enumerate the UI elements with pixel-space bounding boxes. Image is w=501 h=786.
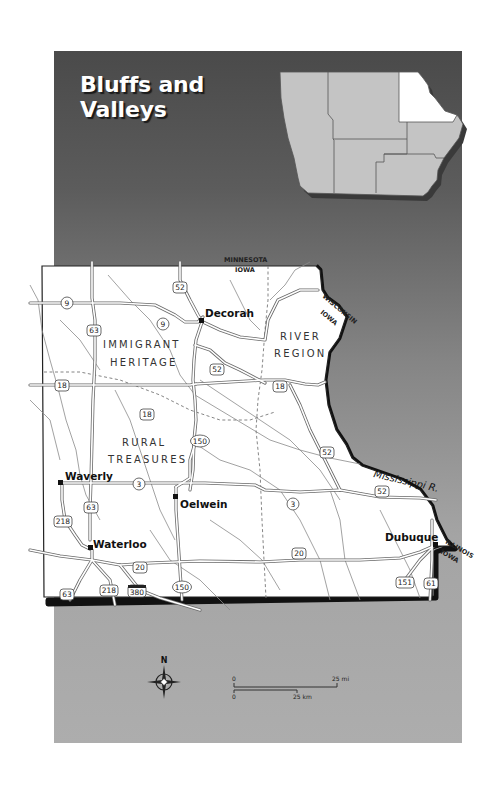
svg-text:52: 52 <box>212 365 222 374</box>
svg-text:Waterloo: Waterloo <box>93 538 147 550</box>
svg-text:18: 18 <box>57 381 67 390</box>
svg-text:Waverly: Waverly <box>65 470 113 482</box>
svg-text:150: 150 <box>175 583 190 592</box>
svg-text:0: 0 <box>232 675 236 682</box>
region-rural-treasures-line2: TREASURES <box>107 454 187 465</box>
svg-text:3: 3 <box>291 500 296 509</box>
svg-text:380: 380 <box>130 588 145 597</box>
svg-text:150: 150 <box>193 437 208 446</box>
scale-bar: 0 25 mi 0 25 km <box>232 675 349 700</box>
shield-us-218: 218 <box>100 585 118 596</box>
svg-text:218: 218 <box>56 517 71 526</box>
svg-text:MINNESOTA: MINNESOTA <box>224 256 267 264</box>
svg-text:52: 52 <box>322 448 332 457</box>
shield-us-61: 61 <box>424 578 438 589</box>
shield-state-3: 3 <box>133 478 145 490</box>
region-map: 9 9 52 52 52 52 63 63 63 18 18 18 150 15… <box>0 0 501 786</box>
svg-text:151: 151 <box>398 578 413 587</box>
region-river-region-line2: REGION <box>274 348 327 359</box>
shield-state-150: 150 <box>173 581 192 593</box>
svg-text:25 mi: 25 mi <box>332 675 349 682</box>
shield-interstate-380: 380 <box>128 585 146 597</box>
svg-text:20: 20 <box>294 549 304 558</box>
shield-us-151: 151 <box>396 577 414 588</box>
iowa-inset-map <box>280 72 467 201</box>
svg-text:63: 63 <box>62 590 72 599</box>
svg-text:20: 20 <box>135 563 145 572</box>
svg-text:3: 3 <box>137 480 142 489</box>
svg-text:52: 52 <box>175 283 185 292</box>
svg-text:9: 9 <box>161 320 166 329</box>
shield-state-9: 9 <box>61 297 73 309</box>
svg-text:Decorah: Decorah <box>205 307 254 319</box>
shield-us-20: 20 <box>133 562 147 573</box>
shield-us-20: 20 <box>292 548 306 559</box>
svg-text:Dubuque: Dubuque <box>385 531 438 543</box>
shield-us-63: 63 <box>84 502 98 513</box>
shield-us-52: 52 <box>320 447 334 458</box>
svg-text:18: 18 <box>275 382 285 391</box>
svg-text:63: 63 <box>86 503 96 512</box>
svg-text:52: 52 <box>377 487 387 496</box>
svg-text:18: 18 <box>142 410 152 419</box>
shield-state-150: 150 <box>191 435 210 447</box>
svg-text:N: N <box>161 656 168 665</box>
shield-us-52: 52 <box>173 282 187 293</box>
shield-us-63: 63 <box>87 325 101 336</box>
shield-us-18: 18 <box>55 380 69 391</box>
region-rural-treasures-line1: RURAL <box>122 437 166 448</box>
shield-us-18: 18 <box>273 381 287 392</box>
svg-text:218: 218 <box>102 586 117 595</box>
region-immigrant-heritage-line1: IMMIGRANT <box>103 339 181 350</box>
shield-us-18: 18 <box>140 409 154 420</box>
svg-text:63: 63 <box>89 326 99 335</box>
svg-text:Oelwein: Oelwein <box>180 498 228 510</box>
city-waterloo: Waterloo <box>88 538 147 550</box>
shield-state-3: 3 <box>287 498 299 510</box>
region-immigrant-heritage-line2: HERITAGE <box>110 357 177 368</box>
svg-text:25 km: 25 km <box>293 693 312 700</box>
compass-rose-icon: N <box>147 656 181 699</box>
shield-us-52: 52 <box>375 486 389 497</box>
shield-us-63: 63 <box>60 589 74 600</box>
shield-us-52: 52 <box>210 364 224 375</box>
shield-us-218: 218 <box>54 516 72 527</box>
svg-text:IOWA: IOWA <box>235 266 255 274</box>
shield-state-9: 9 <box>157 318 169 330</box>
region-river-region-line1: RIVER <box>280 331 321 342</box>
svg-text:61: 61 <box>426 579 436 588</box>
svg-text:9: 9 <box>65 299 70 308</box>
highlighted-region-northeast <box>399 72 457 122</box>
svg-text:0: 0 <box>232 693 236 700</box>
